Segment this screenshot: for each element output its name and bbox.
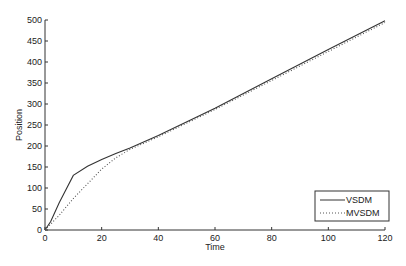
y-tick-label: 400 (27, 57, 42, 67)
line-chart: 0204060801001200501001502002503003504004… (0, 0, 406, 266)
y-tick-label: 50 (32, 204, 42, 214)
y-tick-label: 350 (27, 78, 42, 88)
legend-mvsdm-label: MVSDM (346, 208, 380, 218)
y-tick-label: 200 (27, 141, 42, 151)
x-tick-label: 0 (42, 233, 47, 243)
y-tick-label: 250 (27, 120, 42, 130)
y-tick-label: 450 (27, 36, 42, 46)
plot-area: 0204060801001200501001502002503003504004… (0, 0, 406, 266)
x-tick-label: 100 (321, 233, 336, 243)
y-axis-label: Position (14, 109, 24, 141)
legend: VSDM MVSDM (315, 191, 389, 221)
y-tick-label: 500 (27, 15, 42, 25)
y-tick-label: 300 (27, 99, 42, 109)
y-tick-label: 0 (37, 225, 42, 235)
x-tick-label: 40 (153, 233, 163, 243)
x-tick-label: 80 (267, 233, 277, 243)
legend-vsdm-label: VSDM (346, 195, 372, 205)
x-tick-label: 120 (377, 233, 392, 243)
x-tick-label: 20 (97, 233, 107, 243)
y-tick-label: 100 (27, 183, 42, 193)
y-tick-label: 150 (27, 162, 42, 172)
x-axis-label: Time (205, 242, 225, 252)
